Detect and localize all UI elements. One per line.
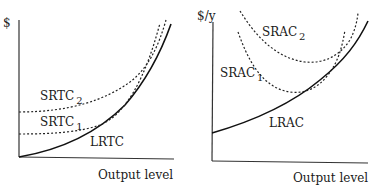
srac2-label: SRAC2 [262,25,305,42]
total-cost-chart: $ SRTC2 SRTC1 LRTC Output level [3,16,174,182]
left-x-label: Output level [98,168,173,182]
average-cost-chart: $/y SRAC2 SRAC1 LRAC Output level [197,9,368,185]
right-y-label: $/y [197,9,216,23]
lrtc-label: LRTC [90,135,124,149]
cost-curves-figure: $ SRTC2 SRTC1 LRTC Output level $/y SRAC… [0,0,378,192]
srtc2-label: SRTC2 [40,89,83,106]
left-x-axis [19,157,174,159]
right-y-axis [212,22,213,161]
srac1-curve [238,30,345,92]
srac1-label: SRAC1 [220,66,263,83]
right-x-axis [212,161,368,163]
srtc1-label: SRTC1 [40,115,83,132]
right-x-label: Output level [293,171,368,185]
lrac-label: LRAC [269,116,304,130]
left-y-label: $ [3,16,11,30]
